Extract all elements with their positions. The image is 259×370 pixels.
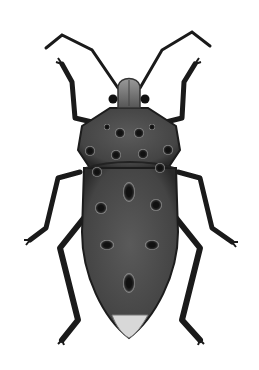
left-hind-leg [60, 218, 84, 340]
right-eye [141, 95, 150, 104]
insect-drawing [0, 0, 259, 370]
pronotum [78, 108, 180, 168]
right-hind-leg [176, 218, 200, 340]
left-front-leg [62, 64, 92, 122]
right-front-leg [166, 64, 195, 122]
insect-illustration: Grayscale illustration of a bug seen fro… [0, 0, 259, 370]
left-eye [109, 95, 118, 104]
right-antenna [140, 32, 210, 88]
